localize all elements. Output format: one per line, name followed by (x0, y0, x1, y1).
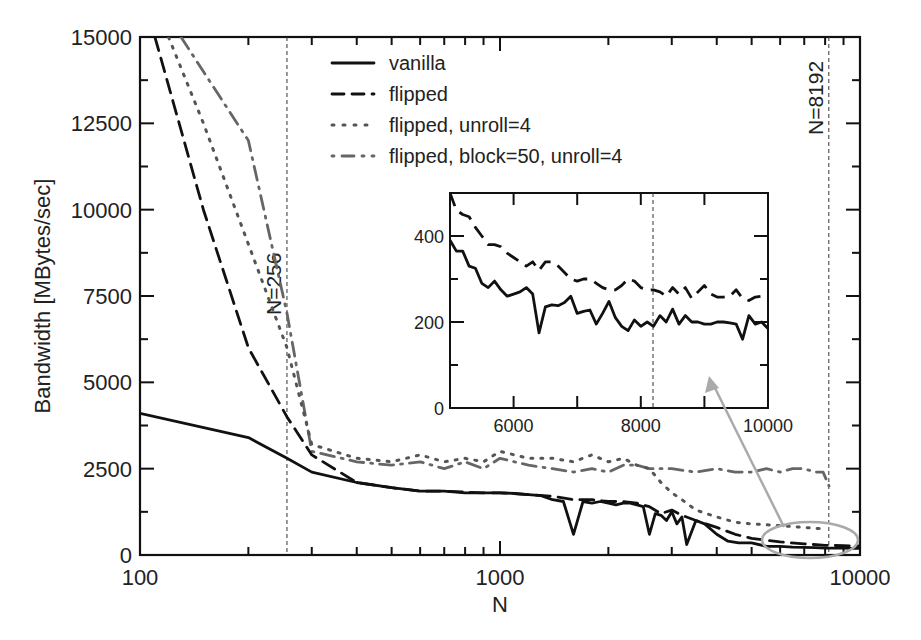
legend-label: vanilla (389, 52, 447, 74)
inset-y-tick-label: 400 (414, 227, 444, 247)
legend-label: flipped, unroll=4 (389, 114, 531, 136)
legend-label: flipped (389, 83, 448, 105)
y-tick-label: 10000 (71, 198, 132, 223)
y-tick-label: 12500 (71, 111, 132, 136)
y-tick-label: 5000 (83, 370, 132, 395)
x-tick-label: 100 (122, 565, 159, 590)
y-tick-label: 7500 (83, 284, 132, 309)
x-tick-label: 1000 (476, 565, 525, 590)
inset-x-tick-label: 10000 (743, 416, 793, 436)
legend-label: flipped, block=50, unroll=4 (389, 145, 623, 167)
y-tick-label: 15000 (71, 25, 132, 50)
inset-y-tick-label: 200 (414, 313, 444, 333)
bandwidth-chart: 1001000100000250050007500100001250015000… (0, 0, 921, 640)
y-tick-label: 0 (120, 543, 132, 568)
inset-x-tick-label: 8000 (621, 416, 661, 436)
inset-plot: 60008000100000200400 (414, 193, 793, 436)
reference-line-label: N=8192 (804, 61, 827, 135)
y-axis-label: Bandwidth [MBytes/sec] (30, 179, 55, 414)
inset-x-tick-label: 6000 (494, 416, 534, 436)
y-tick-label: 2500 (83, 457, 132, 482)
x-axis-label: N (492, 592, 508, 617)
legend: vanillaflippedflipped, unroll=4flipped, … (332, 52, 623, 167)
inset-y-tick-label: 0 (434, 399, 444, 419)
x-tick-label: 10000 (829, 565, 890, 590)
